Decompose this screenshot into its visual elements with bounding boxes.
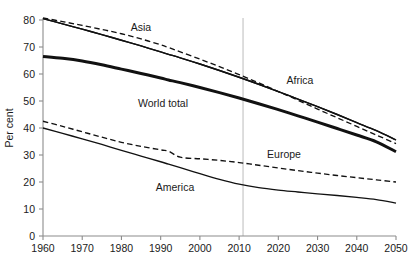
series-africa [43, 19, 396, 140]
series-asia-dashed [43, 18, 396, 144]
chart-container: 01020304050607080 1960197019801990200020… [0, 0, 415, 272]
y-tick-label-50: 50 [23, 95, 35, 107]
series-inline-labels: AsiaAfricaWorld totalEuropeAmerica [131, 21, 314, 193]
y-tick-label-0: 0 [29, 230, 35, 242]
x-tick-label-2040: 2040 [345, 242, 369, 254]
y-tick-label-10: 10 [23, 203, 35, 215]
x-tick-label-2030: 2030 [306, 242, 330, 254]
europe-label: Europe [267, 148, 301, 160]
series-paths [43, 18, 396, 203]
asia-label: Asia [131, 21, 152, 33]
y-tick-label-80: 80 [23, 14, 35, 26]
y-tick-labels: 01020304050607080 [23, 14, 35, 242]
world-total-label: World total [138, 97, 188, 109]
series-asia [43, 19, 396, 140]
america-label: America [156, 181, 195, 193]
y-tick-label-60: 60 [23, 68, 35, 80]
x-tick-label-2020: 2020 [267, 242, 291, 254]
y-tick-label-70: 70 [23, 41, 35, 53]
y-tick-label-30: 30 [23, 149, 35, 161]
x-tick-marks [43, 236, 396, 240]
x-tick-label-1960: 1960 [31, 242, 55, 254]
x-tick-label-2010: 2010 [227, 242, 251, 254]
x-tick-label-2000: 2000 [188, 242, 212, 254]
line-chart: 01020304050607080 1960197019801990200020… [0, 0, 415, 272]
x-tick-label-2050: 2050 [384, 242, 408, 254]
y-tick-label-40: 40 [23, 122, 35, 134]
africa-label: Africa [287, 74, 314, 86]
y-axis-title: Per cent [3, 108, 15, 147]
y-tick-label-20: 20 [23, 176, 35, 188]
x-tick-label-1990: 1990 [149, 242, 173, 254]
x-tick-label-1980: 1980 [110, 242, 134, 254]
y-tick-marks [39, 20, 43, 236]
x-tick-label-1970: 1970 [71, 242, 95, 254]
x-tick-labels: 1960197019801990200020102020203020402050 [31, 242, 408, 254]
series-america [43, 128, 396, 203]
